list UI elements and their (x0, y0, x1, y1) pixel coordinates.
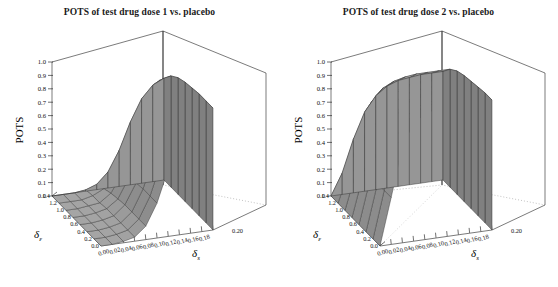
surface-mesh-dose-1 (52, 76, 213, 246)
figure-two-surface-plots: POTS of test drug dose 1 vs. placebo (0, 0, 558, 287)
x-axis-label-subscript: s (476, 254, 479, 262)
surface-skirt-cell (192, 88, 199, 216)
surface-skirt-cell (142, 85, 153, 183)
surface-skirt-cell (185, 82, 192, 208)
x-tick-label: 0.18 (477, 233, 490, 243)
z-tick-label: 0.8 (317, 85, 326, 92)
surface-skirt-cell (108, 150, 119, 188)
surface-skirt-cell (331, 173, 342, 196)
z-tick-label: 0.2 (317, 166, 325, 173)
surface-skirt-cell (398, 78, 409, 187)
surface-skirt-cell (485, 93, 492, 230)
surface-skirt-cell (97, 172, 108, 190)
surface-skirt-cell (171, 76, 178, 194)
z-tick-label: 0.9 (317, 72, 326, 79)
surface-skirt-cell (432, 71, 443, 181)
surface-skirt-cell (206, 101, 213, 230)
y-axis-label-subscript: ε (318, 235, 321, 243)
surface-skirt-cell (153, 78, 164, 181)
surface-skirt-cell (119, 122, 130, 187)
surface-skirt-cell (365, 96, 376, 191)
surface-skirt-cell (450, 69, 457, 194)
x-tick-label: 0.20 (511, 227, 522, 234)
surface-skirt-cell (409, 75, 420, 185)
z-tick-label: 0.7 (38, 99, 47, 106)
x-axis-label-subscript: s (197, 254, 200, 262)
z-tick-label: 0.6 (317, 112, 326, 119)
z-axis-tick-labels-2: 1.0 0.9 0.8 0.7 0.6 0.5 0.4 0.3 0.2 0.1 … (317, 58, 326, 199)
surface-mesh-dose-2 (331, 69, 492, 246)
surface-skirt-cell (164, 76, 171, 187)
surface-skirt-cell (478, 87, 485, 223)
x-tick-label: 0.18 (198, 233, 211, 243)
surface-skirt-cell (387, 81, 398, 188)
z-tick-label: 0.4 (38, 139, 47, 146)
surface-skirt-cell (342, 139, 353, 194)
surface-skirt-cell (353, 112, 364, 193)
z-tick-label: 0.7 (317, 99, 326, 106)
x-axis-label-2: δs (471, 247, 479, 262)
z-tick-label: 0.5 (38, 125, 47, 132)
y-tick-label: 1.4 (42, 192, 51, 199)
y-axis-label-1: δε (34, 228, 42, 243)
z-tick-label: 0.6 (38, 112, 47, 119)
surface-skirt-cell (471, 81, 478, 215)
z-tick-label: 0.9 (38, 72, 47, 79)
surface-skirt-cell (199, 94, 206, 223)
z-axis-tick-labels-1: 1.0 0.9 0.8 0.7 0.6 0.5 0.4 0.3 0.2 0.1 … (38, 58, 47, 199)
y-axis-label-2: δε (313, 228, 321, 243)
surface-skirt-cell (376, 86, 387, 189)
x-axis-tick-labels-2: 0.00 0.02 0.04 0.06 0.08 0.10 0.12 0.14 … (376, 227, 522, 257)
z-tick-label: 0.3 (38, 152, 47, 159)
z-axis-label-1: POTS (13, 117, 25, 144)
surface-skirt-cell (421, 73, 432, 183)
surface-skirt-cell (130, 99, 141, 185)
x-axis-label-1: δs (192, 247, 200, 262)
surface-skirt-cell (178, 78, 185, 202)
z-tick-label: 1.0 (317, 58, 326, 65)
z-axis-label-2: POTS (292, 117, 304, 144)
y-tick-label: 1.4 (321, 192, 330, 199)
z-tick-label: 1.0 (38, 58, 47, 65)
z-tick-label: 0.4 (317, 139, 326, 146)
plot-panel-dose-2: POTS of test drug dose 2 vs. placebo (279, 0, 558, 287)
y-axis-label-subscript: ε (39, 235, 42, 243)
z-tick-label: 0.3 (317, 152, 326, 159)
surface-plot-dose-1: 1.0 0.9 0.8 0.7 0.6 0.5 0.4 0.3 0.2 0.1 … (0, 0, 279, 287)
surface-skirt-cell (464, 75, 471, 208)
z-tick-label: 0.2 (38, 166, 46, 173)
x-tick-label: 0.20 (232, 227, 243, 234)
z-tick-label: 0.5 (317, 125, 326, 132)
surface-plot-dose-2: 1.0 0.9 0.8 0.7 0.6 0.5 0.4 0.3 0.2 0.1 … (279, 0, 558, 287)
z-tick-label: 0.1 (38, 179, 46, 186)
surface-skirt-cell (443, 69, 450, 187)
surface-skirt-cell (457, 71, 464, 201)
plot-panel-dose-1: POTS of test drug dose 1 vs. placebo (0, 0, 279, 287)
z-tick-label: 0.8 (38, 85, 47, 92)
z-tick-label: 0.1 (317, 179, 325, 186)
